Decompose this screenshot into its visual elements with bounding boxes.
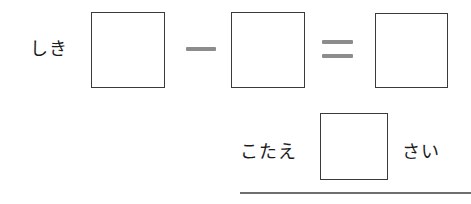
worksheet-canvas: しき こたえ さい: [0, 0, 471, 204]
equation-box-result[interactable]: [375, 13, 448, 88]
minus-sign-icon: [186, 47, 216, 51]
equation-box-subtrahend[interactable]: [231, 12, 305, 88]
answer-unit-label: さい: [402, 143, 440, 161]
equals-sign-icon-upper: [322, 40, 353, 44]
bottom-divider: [240, 192, 471, 194]
equation-label: しき: [30, 40, 68, 58]
answer-box[interactable]: [320, 113, 388, 180]
equals-sign-icon-lower: [322, 54, 353, 58]
answer-label: こたえ: [240, 143, 297, 161]
equation-box-minuend[interactable]: [91, 12, 165, 88]
